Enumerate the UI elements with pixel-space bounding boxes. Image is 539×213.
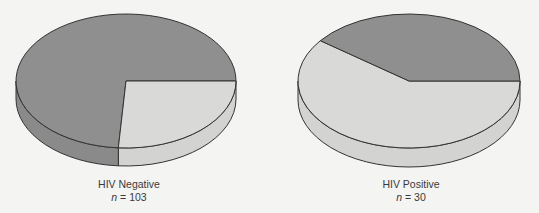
hiv-negative-count: n = 103 <box>49 191 209 204</box>
hiv-positive-label: HIV Positive n = 30 <box>331 178 491 204</box>
hiv-negative-title: HIV Negative <box>49 178 209 191</box>
hiv-positive-count: n = 30 <box>331 191 491 204</box>
hiv-negative-label: HIV Negative n = 103 <box>49 178 209 204</box>
hiv-negative-light-slice <box>118 81 236 148</box>
hiv-positive-title: HIV Positive <box>331 178 491 191</box>
